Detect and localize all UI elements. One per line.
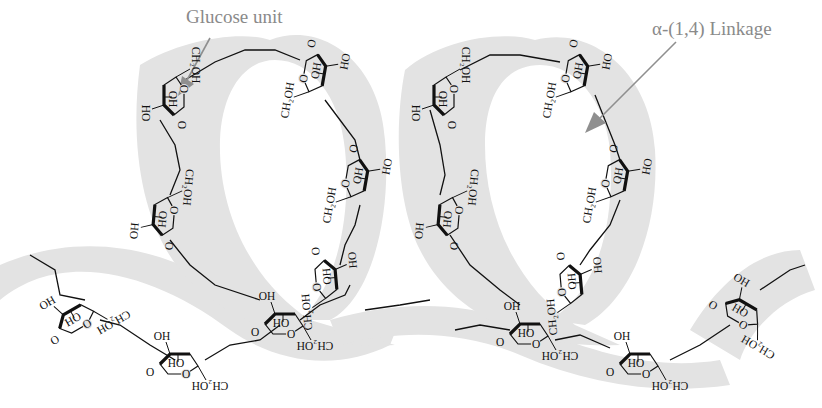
glucose-unit: OCH₂OHOHHOO [540,248,609,336]
ch2oh-group: CH₂OH [299,293,314,331]
glycosidic-oxygen: O [309,246,322,255]
glycosidic-oxygen: O [448,241,461,250]
oh-group: OH [273,317,290,329]
glycosidic-oxygen: O [496,336,504,348]
oh-group: OH [168,357,185,369]
oh-group: OH [570,61,585,79]
glucose-unit: OCH₂OHOHHOO [410,47,472,129]
oh-group: OH [565,272,578,290]
glycosidic-oxygen: O [554,251,567,260]
glucose-unit: OCH₂OHOHHOO [412,164,481,252]
ho-group: HO [154,330,171,342]
glucose-unit: OCH₂OHOHHOO [295,243,364,331]
ho-group: HO [379,157,394,175]
glucose-unit: OCH₂OHOHHOO [251,290,333,352]
glycosidic-oxygen: O [446,121,458,129]
ch2oh-group: CH₂OH [278,81,296,119]
glycosidic-oxygen: O [567,38,580,48]
oh-group: OH [518,327,535,339]
oh-group: OH [350,166,365,184]
glucose-unit: OCH₂OHOHHOO [140,47,202,129]
ho-group: HO [731,271,751,290]
oh-group: OH [628,357,645,369]
glucose-unit: OCH₂OHOHHOO [496,300,578,362]
glycosidic-oxygen: O [706,298,719,313]
glucose-unit: OCH₂OHOHHOO [127,164,196,252]
glucose-unit: OCH₂OHOHHOO [580,141,655,233]
ho-group: HO [591,256,604,274]
glycosidic-oxygen: O [146,366,154,378]
ho-group: HO [599,52,614,70]
glycosidic-oxygen: O [176,121,188,129]
ho-group: HO [410,105,422,122]
oh-group: OH [437,91,449,108]
glucose-units-layer: OCH₂OHOHHOOOCH₂OHOHHOOOCH₂OHOHHOOOCH₂OHO… [0,0,822,408]
glucose-unit: OCH₂OHOHHOO [699,267,801,362]
glycosidic-oxygen: O [48,333,61,348]
ho-group: HO [337,52,352,70]
oh-group: OH [610,166,625,184]
glucose-unit: OCH₂OHOHHOO [278,36,353,128]
ho-group: HO [346,251,359,269]
glycosidic-oxygen: O [163,241,176,250]
ho-group: HO [413,222,426,240]
ho-group: HO [639,157,654,175]
glucose-unit: OCH₂OHOHHOO [606,330,688,392]
ho-group: HO [504,300,521,312]
glycosidic-oxygen: O [347,143,360,153]
ch2oh-group: CH₂OH [580,186,598,224]
oh-group: OH [441,210,454,228]
glucose-unit: OCH₂OHOHHOO [320,141,395,233]
ch2oh-group: CH₂OH [192,380,229,392]
ho-group: HO [37,294,57,313]
glycosidic-oxygen: O [607,143,620,153]
glucose-unit: OCH₂OHOHHOO [540,36,615,128]
ch2oh-group: CH₂OH [297,340,334,352]
glucose-unit: OCH₂OHOHHOO [30,265,132,360]
ho-group: HO [140,105,152,122]
ch2oh-group: CH₂OH [181,169,196,207]
glycosidic-oxygen: O [305,38,318,48]
amylose-helix-diagram: OCH₂OHOHHOOOCH₂OHOHHOOOCH₂OHOHHOOOCH₂OHO… [0,0,822,408]
glycosidic-oxygen: O [251,326,259,338]
ho-group: HO [259,290,276,302]
ch2oh-group: CH₂OH [190,47,202,84]
glycosidic-oxygen: O [606,366,614,378]
ch2oh-group: CH₂OH [652,380,689,392]
ch2oh-group: CH₂OH [540,81,558,119]
glucose-unit: OCH₂OHOHHOO [146,330,228,392]
ch2oh-group: CH₂OH [466,169,481,207]
ho-group: HO [128,222,141,240]
ch2oh-group: CH₂OH [460,47,472,84]
oh-group: OH [156,210,169,228]
glucose-unit-label: Glucose unit [186,6,283,28]
ch2oh-group: CH₂OH [95,308,133,337]
alpha-1-4-linkage-label: α-(1,4) Linkage [652,18,772,40]
ch2oh-group: CH₂OH [544,298,559,336]
oh-group: OH [167,91,179,108]
ch2oh-group: CH₂OH [320,186,338,224]
ch2oh-group: CH₂OH [542,350,579,362]
oh-group: OH [320,267,333,285]
oh-group: OH [308,61,323,79]
ho-group: HO [614,330,631,342]
